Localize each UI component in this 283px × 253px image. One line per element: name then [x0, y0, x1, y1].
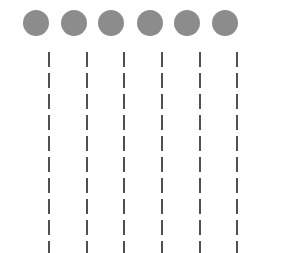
- dashed-line-1: [48, 52, 50, 253]
- circle-marker-1: [23, 10, 49, 36]
- circle-marker-2: [61, 10, 87, 36]
- dashed-line-5: [199, 52, 201, 253]
- circle-marker-5: [174, 10, 200, 36]
- circle-marker-4: [137, 10, 163, 36]
- dashed-line-6: [236, 52, 238, 253]
- circle-marker-6: [212, 10, 238, 36]
- dashed-line-2: [86, 52, 88, 253]
- circle-marker-3: [98, 10, 124, 36]
- dashed-line-3: [123, 52, 125, 253]
- dashed-line-4: [161, 52, 163, 253]
